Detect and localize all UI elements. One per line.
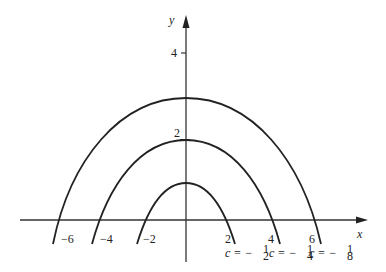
y-axis-arrow-icon — [183, 15, 190, 28]
svg-text:c = −: c = − — [225, 246, 253, 260]
x-axis-arrow-icon — [356, 217, 368, 224]
y-axis-label: y — [168, 13, 175, 27]
svg-text:c = −: c = − — [309, 246, 337, 260]
parabola-family-chart: y x 4 2 −6 −4 −2 2 4 6 c = − 1 2 c = − 1… — [0, 0, 386, 272]
x-tick-label-2: 2 — [225, 232, 231, 246]
x-tick-label-neg2: −2 — [143, 232, 156, 246]
curve-label-neg-half: c = − 1 2 — [225, 242, 269, 263]
y-tick-label-2: 2 — [174, 126, 180, 140]
curve-c-neg-eighth — [53, 98, 321, 244]
x-tick-label-neg4: −4 — [100, 232, 113, 246]
curve-label-neg-eighth: c = − 1 8 — [309, 242, 353, 263]
svg-text:8: 8 — [347, 249, 353, 263]
curve-label-neg-quarter: c = − 1 4 — [269, 242, 313, 263]
y-tick-label-4: 4 — [171, 46, 177, 60]
x-tick-label-neg6: −6 — [61, 232, 74, 246]
x-axis-label: x — [356, 227, 363, 241]
svg-text:c = −: c = − — [269, 246, 297, 260]
